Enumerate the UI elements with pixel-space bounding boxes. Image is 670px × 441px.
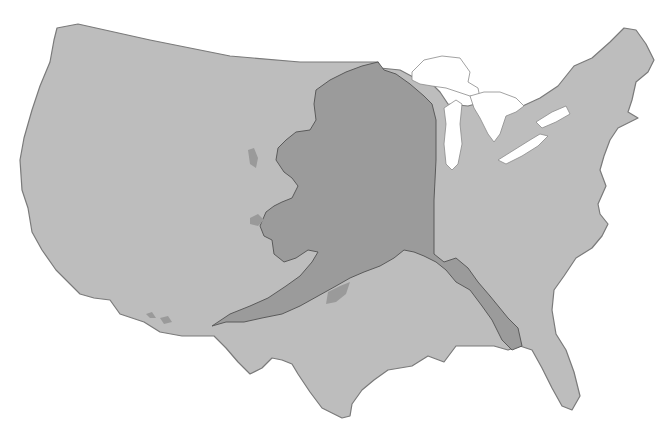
map-container bbox=[0, 0, 670, 441]
lake-michigan bbox=[444, 100, 462, 170]
map-canvas bbox=[0, 0, 670, 441]
